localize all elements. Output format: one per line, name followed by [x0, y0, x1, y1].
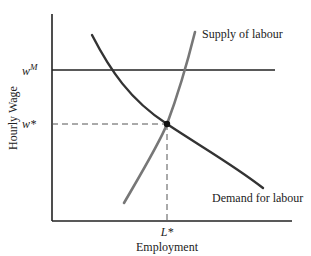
w-star-label: w* — [22, 117, 36, 131]
y-axis-title: Hourly Wage — [6, 86, 20, 150]
w-min-label: wM — [22, 62, 38, 78]
x-axis-title: Employment — [136, 240, 199, 254]
labour-market-diagram: wM w* L* Employment Hourly Wage Supply o… — [0, 0, 311, 256]
supply-label: Supply of labour — [202, 27, 283, 41]
l-star-label: L* — [160, 225, 174, 239]
demand-curve — [92, 35, 263, 188]
equilibrium-point — [164, 121, 170, 127]
demand-label: Demand for labour — [212, 191, 303, 205]
